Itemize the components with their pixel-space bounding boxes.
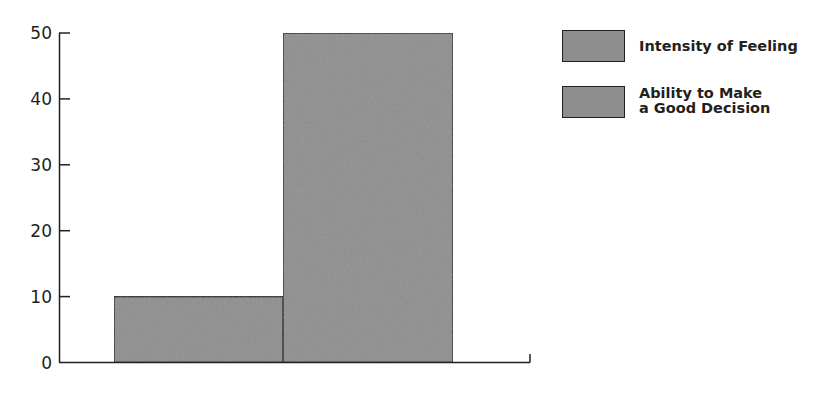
y-tick-label: 30	[30, 155, 52, 175]
y-tick-label: 10	[30, 287, 52, 307]
bar-intensity-of-feeling	[114, 297, 283, 363]
legend-label-ability: Ability to Make a Good Decision	[639, 86, 770, 116]
bars-group	[114, 33, 453, 363]
y-tick-label: 40	[30, 89, 52, 109]
legend-swatch-intensity	[562, 30, 625, 62]
y-tick-label: 0	[41, 353, 52, 373]
y-axis-ticks: 01020304050	[30, 23, 70, 373]
bar-ability-to-make-good-decision	[283, 33, 453, 363]
legend-label-intensity: Intensity of Feeling	[639, 39, 798, 54]
y-tick-label: 20	[30, 221, 52, 241]
legend-swatch-ability	[562, 86, 625, 118]
bar-chart: 01020304050	[0, 0, 831, 400]
y-tick-label: 50	[30, 23, 52, 43]
